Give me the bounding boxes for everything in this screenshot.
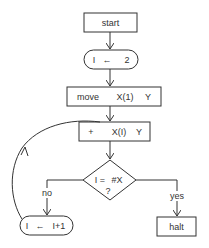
move-source: X(1)	[116, 92, 133, 102]
start-label: start	[102, 18, 120, 28]
move-target: Y	[145, 92, 151, 102]
add-op: +	[88, 127, 93, 137]
decision-count: #X	[111, 175, 122, 185]
increment-assign-arrow: ←	[36, 221, 45, 231]
yes-label: yes	[170, 191, 185, 201]
flowchart: start I ← 2 move X(1) Y + X(I) Y I = #X …	[0, 0, 209, 248]
halt-node: halt	[157, 217, 196, 236]
halt-label: halt	[169, 222, 184, 232]
init-value: 2	[124, 55, 129, 65]
increment-expr: I+1	[53, 221, 66, 231]
decision-var: I =	[95, 175, 105, 185]
no-label: no	[42, 188, 52, 198]
move-op: move	[77, 92, 99, 102]
add-node: + X(I) Y	[79, 122, 150, 141]
start-node: start	[84, 13, 137, 32]
init-var: I	[93, 55, 96, 65]
increment-var: I	[26, 221, 29, 231]
init-assign-arrow: ←	[103, 55, 112, 65]
init-node: I ← 2	[84, 50, 138, 69]
decision-node: I = #X ?	[83, 160, 136, 200]
increment-node: I ← I+1	[20, 216, 73, 235]
add-target: Y	[136, 127, 142, 137]
move-node: move X(1) Y	[67, 87, 161, 106]
decision-question: ?	[105, 186, 110, 196]
add-source: X(I)	[112, 127, 127, 137]
